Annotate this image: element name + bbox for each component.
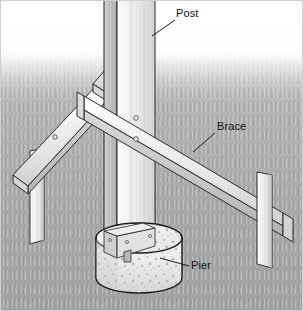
label-post: Post: [176, 8, 198, 19]
stake-right: [257, 172, 272, 268]
label-brace: Brace: [217, 121, 246, 132]
label-pier: Pier: [191, 260, 211, 271]
illustration-canvas: Post Brace Pier: [0, 0, 303, 311]
post-brace-pier-illustration: [0, 0, 303, 311]
